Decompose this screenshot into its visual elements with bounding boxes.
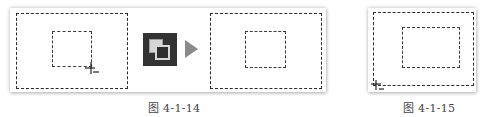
crosshair-cursor-icon: [371, 80, 385, 92]
front-square-shape: [155, 45, 170, 60]
caption-figure-4-1-15: 图 4-1-15: [403, 99, 455, 115]
after-inner-selection: [245, 31, 286, 68]
right-arrow-icon: [185, 40, 198, 58]
caption-figure-4-1-14: 图 4-1-14: [148, 99, 200, 115]
bring-to-front-icon[interactable]: [143, 33, 177, 66]
crosshair-cursor-icon: [85, 62, 99, 74]
inner-selection: [402, 27, 460, 68]
